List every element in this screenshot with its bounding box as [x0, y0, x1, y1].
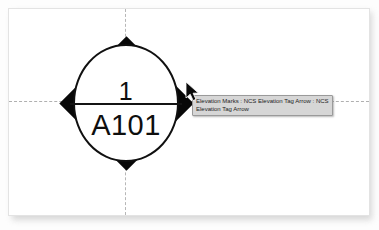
drawing-canvas[interactable]: 1 A101 Elevation Marks : NCS Elevation T…: [8, 8, 370, 216]
elevation-tag-symbol[interactable]: 1 A101: [65, 33, 187, 173]
screenshot-root: 1 A101 Elevation Marks : NCS Elevation T…: [0, 0, 379, 230]
detail-number-text: 1: [65, 79, 187, 104]
tooltip-line-primary: Elevation Marks : NCS Elevation Tag Arro…: [196, 97, 329, 105]
sheet-number-text: A101: [65, 111, 187, 140]
tooltip-line-secondary: Elevation Tag Arrow: [196, 105, 329, 113]
tooltip: Elevation Marks : NCS Elevation Tag Arro…: [192, 95, 333, 116]
